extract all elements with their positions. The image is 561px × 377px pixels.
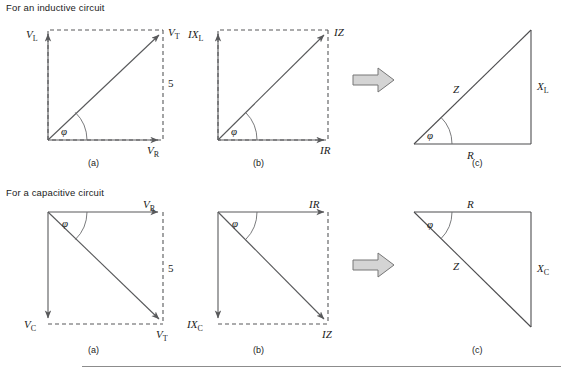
horizontal-side-label: R [466, 198, 474, 210]
capacitive-phasor-diagram-b: IR IXC IZ φ [200, 200, 350, 340]
transform-arrow-top [352, 66, 396, 98]
resultant-phasor-label: IZ [321, 328, 333, 340]
block-arrow-shape [353, 253, 394, 277]
vertical-side-label: XC [536, 262, 549, 277]
caption-inductive-a: (a) [88, 158, 99, 168]
caption-capacitive-b: (b) [253, 345, 264, 355]
transform-arrow-bottom [352, 251, 396, 283]
vertical-side-label: XL [536, 80, 549, 95]
footer-divider-rule [82, 366, 561, 367]
caption-inductive-c: (c) [472, 158, 483, 168]
resultant-phasor-label: IZ [333, 26, 345, 38]
phasor-diagram-figure: For an inductive circuit VL VR VT φ [0, 0, 561, 377]
phase-angle-label: φ [427, 129, 433, 141]
step-number-capacitive: 5 [168, 262, 174, 274]
caption-capacitive-c: (c) [472, 345, 483, 355]
phase-angle-label: φ [62, 217, 68, 229]
phase-angle-label: φ [427, 218, 433, 230]
phase-angle-arc [246, 212, 257, 239]
vertical-phasor-label: VC [24, 318, 36, 333]
caption-capacitive-a: (a) [88, 345, 99, 355]
caption-inductive-b: (b) [253, 158, 264, 168]
capacitive-section-title: For a capacitive circuit [6, 187, 104, 199]
horizontal-phasor-label: IR [308, 198, 320, 210]
capacitive-impedance-triangle-c: R XC Z φ [405, 200, 555, 340]
horizontal-phasor-label: VR [143, 198, 156, 213]
resultant-phasor-label: VT [168, 26, 180, 41]
inductive-phasor-diagram-b: IXL IR IZ φ [200, 18, 350, 153]
vertical-phasor-label: IXL [187, 28, 203, 43]
phase-angle-arc [441, 212, 452, 239]
phase-angle-arc [75, 112, 87, 140]
inductive-section-title: For an inductive circuit [6, 2, 105, 14]
inductive-phasor-diagram-a: VL VR VT φ [30, 18, 180, 153]
phase-angle-label: φ [61, 125, 67, 137]
phase-angle-arc [75, 212, 87, 240]
capacitive-phasor-diagram-a: VR VC VT φ [30, 200, 180, 340]
inductive-impedance-triangle-c: Z XL R φ [405, 18, 555, 153]
horizontal-phasor-label: VR [147, 144, 160, 159]
resultant-phasor-label: VT [156, 328, 168, 343]
phase-angle-arc [246, 113, 257, 140]
horizontal-phasor-label: IR [319, 144, 331, 156]
triangle-hypotenuse [414, 30, 531, 144]
vertical-phasor-label: IXC [186, 318, 203, 333]
phase-angle-arc [441, 117, 452, 144]
hypotenuse-label: Z [453, 260, 460, 272]
phase-angle-label: φ [231, 125, 237, 137]
block-arrow-shape [353, 68, 394, 92]
phase-angle-label: φ [232, 217, 238, 229]
step-number-inductive: 5 [168, 77, 174, 89]
vertical-phasor-label: VL [26, 28, 38, 43]
hypotenuse-label: Z [453, 83, 460, 95]
